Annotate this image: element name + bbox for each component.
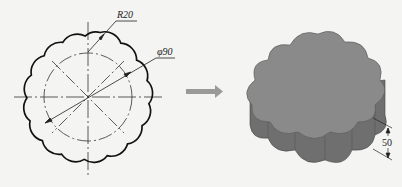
flower-2d-view: R20 φ90 xyxy=(14,9,175,178)
diagram-stage: R20 φ90 xyxy=(0,0,402,187)
radius-label: R20 xyxy=(116,9,133,20)
center-lines xyxy=(14,22,164,178)
flower-3d-solid: 50 xyxy=(247,31,395,162)
diagram-svg: R20 φ90 xyxy=(0,0,402,187)
arrow-icon xyxy=(186,85,223,98)
diameter-leader xyxy=(45,58,175,123)
diameter-label: φ90 xyxy=(157,46,173,57)
height-label: 50 xyxy=(382,137,392,148)
radius-leader xyxy=(88,21,137,52)
